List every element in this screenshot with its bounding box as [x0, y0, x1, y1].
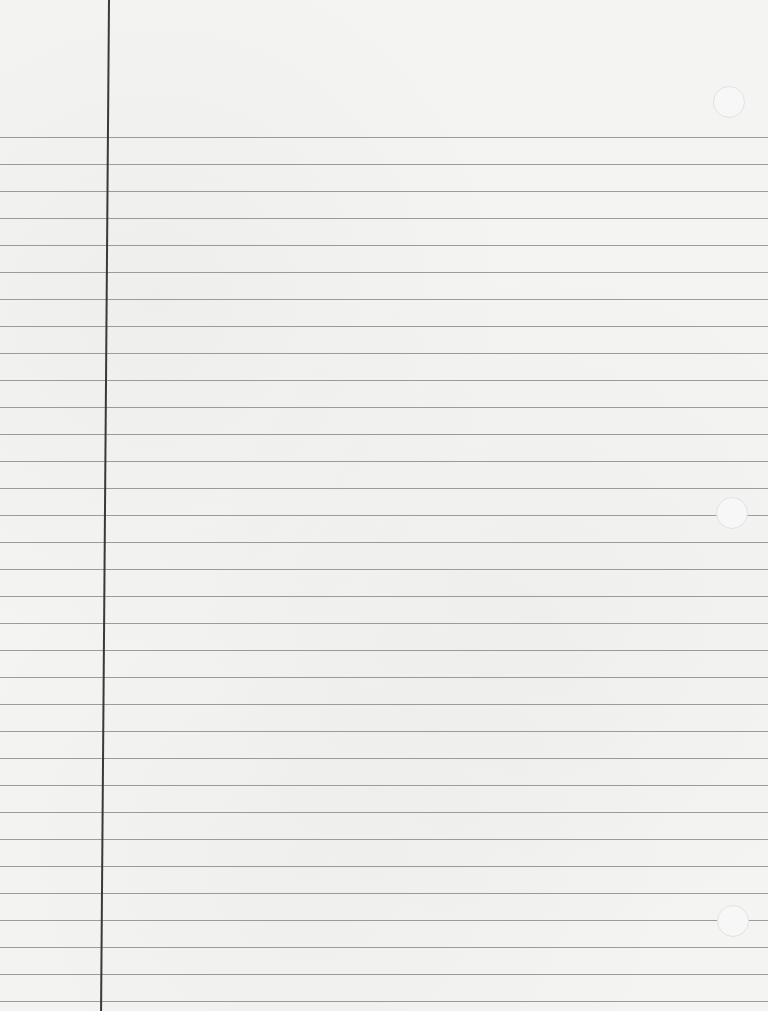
ruled-line: [0, 947, 768, 948]
ruled-line: [0, 839, 768, 840]
ruled-line: [0, 1001, 768, 1002]
ruled-line: [0, 974, 768, 975]
ruled-line: [0, 542, 768, 543]
ruled-line: [0, 299, 768, 300]
ruled-line: [0, 704, 768, 705]
ruled-line: [0, 569, 768, 570]
ruled-line: [0, 137, 768, 138]
ruled-line: [0, 407, 768, 408]
margin-line: [100, 0, 109, 1011]
ruled-line: [0, 191, 768, 192]
punch-hole: [716, 497, 748, 529]
ruled-line: [0, 515, 768, 516]
ruled-line: [0, 731, 768, 732]
ruled-line: [0, 380, 768, 381]
ruled-line: [0, 326, 768, 327]
punch-hole: [717, 905, 749, 937]
ruled-line: [0, 272, 768, 273]
ruled-line: [0, 623, 768, 624]
ruled-line: [0, 866, 768, 867]
ruled-line: [0, 245, 768, 246]
ruled-line: [0, 488, 768, 489]
ruled-line: [0, 650, 768, 651]
notebook-paper: [0, 0, 768, 1011]
ruled-line: [0, 758, 768, 759]
ruled-line: [0, 434, 768, 435]
ruled-line: [0, 785, 768, 786]
ruled-line: [0, 920, 768, 921]
ruled-line: [0, 596, 768, 597]
ruled-line: [0, 218, 768, 219]
ruled-line: [0, 893, 768, 894]
ruled-line: [0, 164, 768, 165]
ruled-line: [0, 812, 768, 813]
ruled-line: [0, 461, 768, 462]
ruled-line: [0, 353, 768, 354]
ruled-line: [0, 677, 768, 678]
punch-hole: [713, 86, 745, 118]
